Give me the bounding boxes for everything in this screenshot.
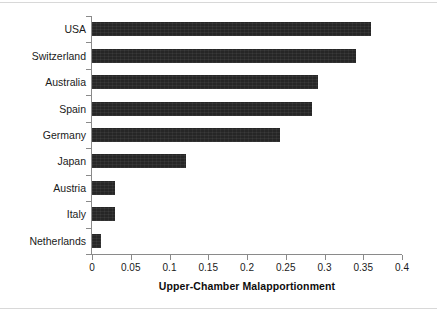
- y-axis-tick: [86, 69, 92, 70]
- bar: [92, 49, 356, 63]
- y-axis-tick-label: Netherlands: [29, 235, 86, 247]
- plot-area: 00.050.10.150.20.250.30.350.4: [92, 16, 402, 254]
- bar: [92, 181, 115, 195]
- x-axis-tick: [325, 255, 326, 260]
- x-axis-tick: [247, 255, 248, 260]
- y-axis-tick-label: Spain: [59, 103, 86, 115]
- x-axis-tick-label: 0.25: [276, 262, 295, 273]
- x-axis-tick-label: 0.05: [121, 262, 140, 273]
- y-axis-tick-label: Australia: [45, 76, 86, 88]
- x-axis-tick: [208, 255, 209, 260]
- x-axis-tick: [92, 255, 93, 260]
- y-axis-tick: [86, 175, 92, 176]
- y-axis-labels: USASwitzerlandAustraliaSpainGermanyJapan…: [0, 16, 86, 254]
- bar: [92, 207, 115, 221]
- x-axis-tick: [363, 255, 364, 260]
- y-axis-tick: [86, 228, 92, 229]
- y-axis-tick-label: Austria: [53, 182, 86, 194]
- y-axis-tick-label: Japan: [57, 155, 86, 167]
- bar: [92, 234, 101, 248]
- y-axis-tick: [86, 95, 92, 96]
- y-axis-tick-label: USA: [64, 23, 86, 35]
- x-axis-tick-label: 0.15: [199, 262, 218, 273]
- bar: [92, 75, 318, 89]
- x-axis-title: Upper-Chamber Malapportionment: [92, 280, 402, 292]
- y-axis-tick-label: Italy: [67, 208, 86, 220]
- y-axis-tick: [86, 148, 92, 149]
- y-axis-tick-label: Germany: [43, 129, 86, 141]
- x-axis-tick: [131, 255, 132, 260]
- x-axis-tick-label: 0: [89, 262, 95, 273]
- x-axis-tick: [170, 255, 171, 260]
- bar: [92, 128, 280, 142]
- page-rule-top: [0, 2, 437, 3]
- x-axis-tick: [286, 255, 287, 260]
- x-axis-tick-label: 0.2: [240, 262, 254, 273]
- bar: [92, 154, 186, 168]
- y-axis-tick-label: Switzerland: [32, 50, 86, 62]
- x-axis-tick-label: 0.35: [354, 262, 373, 273]
- x-axis-tick-label: 0.4: [395, 262, 409, 273]
- chart-figure: USASwitzerlandAustraliaSpainGermanyJapan…: [0, 0, 437, 317]
- y-axis-tick: [86, 201, 92, 202]
- y-axis-tick: [86, 16, 92, 17]
- x-axis-tick-label: 0.1: [163, 262, 177, 273]
- page-rule-bottom: [0, 308, 437, 309]
- y-axis-tick: [86, 122, 92, 123]
- bar: [92, 102, 312, 116]
- x-axis-tick: [402, 255, 403, 260]
- y-axis-tick: [86, 42, 92, 43]
- x-axis-tick-label: 0.3: [318, 262, 332, 273]
- bar: [92, 22, 371, 36]
